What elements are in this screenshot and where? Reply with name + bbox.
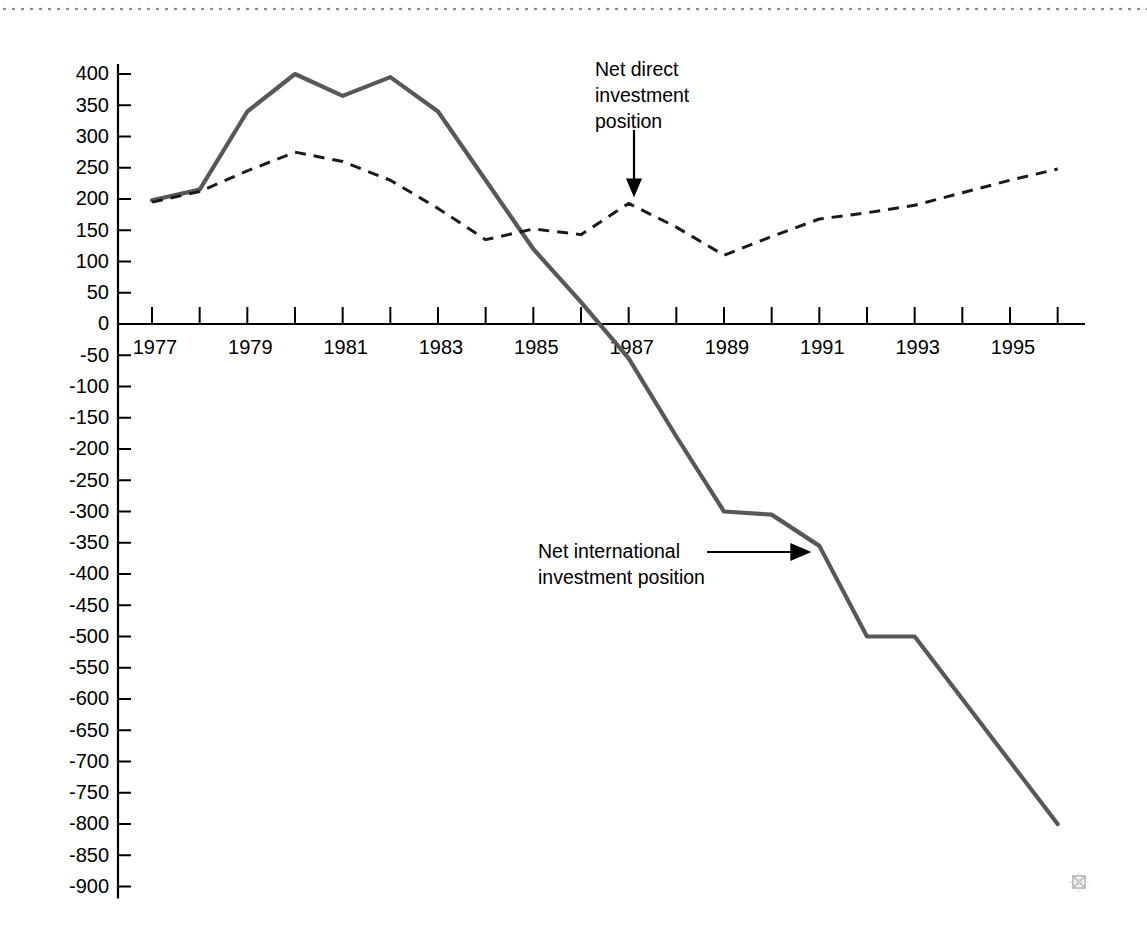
line-chart: 400350300250200150100500-50-100-150-200-… bbox=[0, 0, 1147, 946]
y-tick-label: -50 bbox=[80, 344, 109, 366]
y-tick-label: -150 bbox=[69, 406, 109, 428]
x-tick-label: 1993 bbox=[895, 336, 940, 358]
y-tick-label: -250 bbox=[69, 469, 109, 491]
ornament-mark bbox=[1069, 872, 1089, 892]
y-tick-label: 250 bbox=[76, 156, 109, 178]
y-tick-label: -850 bbox=[69, 844, 109, 866]
x-tick-label: 1989 bbox=[705, 336, 750, 358]
y-tick-label: -550 bbox=[69, 656, 109, 678]
annotation-arrowhead-right bbox=[790, 543, 811, 561]
y-tick-label: 350 bbox=[76, 94, 109, 116]
y-tick-label: -750 bbox=[69, 781, 109, 803]
annotation-net-direct-investment-position-line: investment bbox=[595, 84, 690, 106]
y-tick-label: -700 bbox=[69, 750, 109, 772]
x-tick-label: 1987 bbox=[609, 336, 654, 358]
x-tick-label: 1983 bbox=[419, 336, 464, 358]
y-tick-label: -600 bbox=[69, 687, 109, 709]
x-tick-label: 1981 bbox=[323, 336, 368, 358]
chart-page: 400350300250200150100500-50-100-150-200-… bbox=[0, 0, 1147, 946]
y-tick-label: -350 bbox=[69, 531, 109, 553]
annotation-arrowhead-down bbox=[626, 178, 642, 197]
y-tick-label: -500 bbox=[69, 625, 109, 647]
annotation-net-direct-investment-position-line: Net direct bbox=[595, 58, 679, 80]
y-tick-label: -300 bbox=[69, 500, 109, 522]
y-tick-label: 400 bbox=[76, 62, 109, 84]
x-tick-label: 1977 bbox=[133, 336, 178, 358]
annotation-net-direct-investment-position-line: position bbox=[595, 110, 662, 132]
y-tick-label: 100 bbox=[76, 250, 109, 272]
y-tick-label: -100 bbox=[69, 375, 109, 397]
y-tick-label: -800 bbox=[69, 812, 109, 834]
y-tick-label: -400 bbox=[69, 562, 109, 584]
annotation-net-international-investment-position-line: Net international bbox=[538, 540, 680, 562]
x-axis: 1977197919811983198519871989199119931995 bbox=[118, 307, 1085, 358]
y-tick-label: -200 bbox=[69, 437, 109, 459]
series-line-net-direct-investment-position bbox=[152, 152, 1058, 255]
y-tick-label: 150 bbox=[76, 219, 109, 241]
x-tick-label: 1991 bbox=[800, 336, 845, 358]
y-tick-label: -650 bbox=[69, 719, 109, 741]
series-group bbox=[152, 74, 1058, 824]
chart-canvas: 400350300250200150100500-50-100-150-200-… bbox=[0, 0, 1147, 946]
x-tick-label: 1979 bbox=[228, 336, 273, 358]
y-tick-label: 50 bbox=[87, 281, 109, 303]
x-tick-label: 1995 bbox=[991, 336, 1036, 358]
y-tick-label: 300 bbox=[76, 125, 109, 147]
y-tick-label: 200 bbox=[76, 187, 109, 209]
annotation-net-international-investment-position-line: investment position bbox=[538, 566, 705, 588]
y-tick-label: -450 bbox=[69, 594, 109, 616]
series-line-net-international-investment-position bbox=[152, 74, 1058, 824]
y-axis: 400350300250200150100500-50-100-150-200-… bbox=[69, 62, 131, 898]
x-tick-label: 1985 bbox=[514, 336, 559, 358]
y-tick-label: -900 bbox=[69, 875, 109, 897]
y-tick-label: 0 bbox=[98, 312, 109, 334]
